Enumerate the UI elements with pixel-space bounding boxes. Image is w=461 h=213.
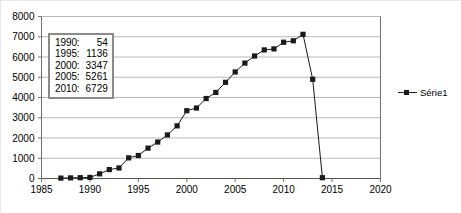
value-callout-row: 1995:1136 [55, 48, 108, 59]
data-point-1991 [97, 171, 102, 176]
x-label-2005: 2005 [224, 184, 247, 195]
data-point-1995 [136, 153, 141, 158]
x-label-2020: 2020 [369, 184, 392, 195]
data-point-1988 [68, 175, 73, 180]
value-callout-row: 2005:5261 [55, 71, 108, 82]
y-label-3000: 3000 [12, 112, 35, 123]
data-point-2014 [320, 175, 325, 180]
data-point-2004 [223, 80, 228, 85]
y-label-8000: 8000 [12, 11, 35, 22]
data-point-2005 [233, 69, 238, 74]
data-point-1992 [107, 167, 112, 172]
value-callout-value: 54 [91, 37, 108, 48]
chart-container: 010002000300040005000600070008000 198519… [0, 0, 461, 213]
y-label-4000: 4000 [12, 92, 35, 103]
data-point-1993 [116, 165, 121, 170]
value-callout-value: 5261 [80, 71, 108, 82]
data-point-2007 [252, 53, 257, 58]
data-point-2001 [194, 105, 199, 110]
y-axis-tick-marks [38, 17, 42, 179]
data-point-1997 [155, 139, 160, 144]
data-point-2009 [271, 46, 276, 51]
value-callout-key: 1995: [55, 48, 80, 59]
value-callout-value: 6729 [80, 83, 108, 94]
x-label-2010: 2010 [273, 184, 296, 195]
data-point-2003 [213, 90, 218, 95]
data-point-1999 [175, 123, 180, 128]
value-callout-row: 2000:3347 [55, 60, 108, 71]
data-point-2010 [281, 40, 286, 45]
y-label-5000: 5000 [12, 72, 35, 83]
data-point-2006 [242, 60, 247, 65]
value-callout-value: 3347 [80, 60, 108, 71]
data-point-1989 [78, 175, 83, 180]
y-label-6000: 6000 [12, 52, 35, 63]
value-callout-row: 2010:6729 [55, 83, 108, 94]
data-point-1994 [126, 155, 131, 160]
data-point-2002 [204, 96, 209, 101]
x-label-1990: 1990 [79, 184, 102, 195]
data-point-2011 [291, 38, 296, 43]
data-point-1987 [58, 176, 63, 181]
value-callout-value: 1136 [80, 48, 108, 59]
data-point-1990 [87, 175, 92, 180]
value-callout-key: 1990: [55, 37, 80, 48]
data-point-2012 [300, 32, 305, 37]
data-point-2000 [184, 108, 189, 113]
y-label-2000: 2000 [12, 133, 35, 144]
y-label-7000: 7000 [12, 31, 35, 42]
value-callout-key: 2010: [55, 83, 80, 94]
data-point-1996 [145, 146, 150, 151]
data-point-2008 [262, 47, 267, 52]
value-callout-key: 2005: [55, 71, 80, 82]
x-label-2000: 2000 [176, 184, 199, 195]
value-callout-key: 2000: [55, 60, 80, 71]
legend-marker-icon [398, 88, 417, 97]
x-label-2015: 2015 [321, 184, 344, 195]
x-label-1995: 1995 [127, 184, 150, 195]
chart-legend: Série1 [398, 87, 447, 98]
data-point-1998 [165, 132, 170, 137]
y-label-1000: 1000 [12, 153, 35, 164]
y-label-0: 0 [29, 173, 35, 184]
x-label-1985: 1985 [30, 184, 53, 195]
value-callout-row: 1990:54 [55, 37, 108, 48]
y-axis-tick-labels: 010002000300040005000600070008000 [12, 11, 35, 184]
value-callout-box: 1990:541995:11362000:33472005:52612010:6… [48, 33, 114, 99]
chart-plot-area: 010002000300040005000600070008000 198519… [0, 0, 461, 213]
data-point-2013 [310, 77, 315, 82]
legend-label-serie1: Série1 [420, 87, 447, 98]
x-axis-tick-labels: 19851990199520002005201020152020 [30, 184, 392, 195]
